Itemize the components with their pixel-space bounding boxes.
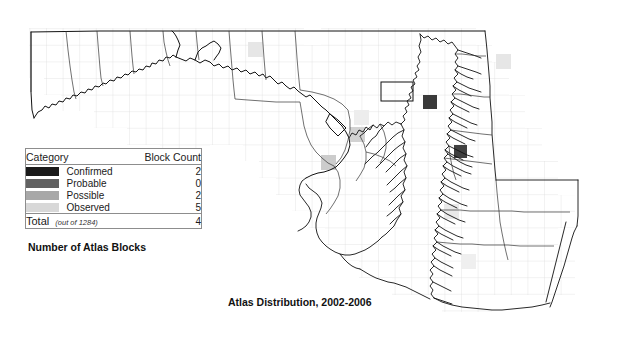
legend-total-note: (out of 1284) [52, 218, 98, 227]
block-possible [350, 127, 365, 142]
block-observed [354, 110, 369, 125]
block-observed [461, 254, 476, 269]
legend-subtitle: Number of Atlas Blocks [28, 241, 146, 253]
legend-header-row: Category Block Count [26, 149, 201, 165]
legend-row-probable: Probable 0 [26, 177, 201, 189]
legend-label-probable: Probable [67, 177, 108, 189]
block-observed [248, 42, 263, 57]
legend-count-probable: 0 [107, 177, 201, 189]
legend-total-label-cell: Total (out of 1284) [26, 214, 107, 229]
legend-header-block-count: Block Count [107, 149, 201, 165]
legend-row-total: Total (out of 1284) 4 [26, 214, 201, 229]
block-observed [496, 54, 511, 69]
legend-count-observed: 5 [107, 201, 201, 214]
map-legend: Category Block Count Confirmed 2 Probabl… [25, 148, 202, 229]
swatch-confirmed [26, 165, 67, 178]
legend-label-possible: Possible [67, 189, 108, 201]
legend-label-observed: Observed [67, 201, 108, 214]
legend-total-label: Total [26, 215, 49, 227]
legend-count-possible: 2 [107, 189, 201, 201]
legend-count-confirmed: 2 [107, 165, 201, 178]
swatch-probable [26, 177, 67, 189]
figure-canvas: Category Block Count Confirmed 2 Probabl… [0, 0, 624, 341]
legend-row-observed: Observed 5 [26, 201, 201, 214]
figure-title: Atlas Distribution, 2002-2006 [228, 296, 372, 308]
swatch-observed [26, 201, 67, 214]
swatch-possible [26, 189, 67, 201]
legend-table: Category Block Count Confirmed 2 Probabl… [26, 149, 201, 228]
legend-header-category: Category [26, 149, 107, 165]
legend-label-confirmed: Confirmed [67, 165, 108, 178]
legend-total-count: 4 [107, 214, 201, 229]
block-confirmed [423, 95, 437, 109]
legend-row-possible: Possible 2 [26, 189, 201, 201]
legend-row-confirmed: Confirmed 2 [26, 165, 201, 178]
